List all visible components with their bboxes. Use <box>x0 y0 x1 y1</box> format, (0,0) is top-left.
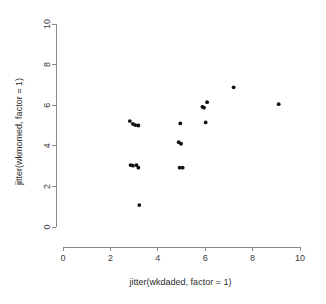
data-point <box>137 203 141 207</box>
x-axis-ticks: 0246810 <box>60 247 305 263</box>
data-point <box>131 164 135 168</box>
data-point <box>128 119 132 123</box>
y-tick-label: 6 <box>42 103 52 108</box>
data-point <box>178 122 182 126</box>
x-tick-label: 0 <box>60 253 65 263</box>
plot-canvas: 0246810 0246810 jitter(wkdaded, factor =… <box>0 0 326 304</box>
y-tick-label: 0 <box>42 224 52 229</box>
data-point <box>232 85 236 89</box>
x-axis-label: jitter(wkdaded, factor = 1) <box>129 277 232 287</box>
scatter-plot-figure: 0246810 0246810 jitter(wkdaded, factor =… <box>0 0 326 304</box>
data-point <box>277 102 281 106</box>
data-point <box>205 100 209 104</box>
x-tick-label: 2 <box>108 253 113 263</box>
data-point <box>202 106 206 110</box>
y-axis-ticks: 0246810 <box>42 19 56 230</box>
data-point <box>136 124 140 128</box>
data-point <box>204 121 208 125</box>
y-axis-label: jitter(wkmomed, factor = 1) <box>14 78 24 186</box>
data-point <box>179 142 183 146</box>
x-tick-label: 10 <box>295 253 305 263</box>
x-tick-label: 4 <box>155 253 160 263</box>
y-tick-label: 2 <box>42 184 52 189</box>
y-tick-label: 8 <box>42 62 52 67</box>
data-point <box>181 166 185 170</box>
y-tick-label: 10 <box>42 19 52 29</box>
data-points <box>128 85 281 207</box>
x-tick-label: 6 <box>203 253 208 263</box>
data-point <box>136 166 140 170</box>
x-tick-label: 8 <box>250 253 255 263</box>
y-tick-label: 4 <box>42 143 52 148</box>
